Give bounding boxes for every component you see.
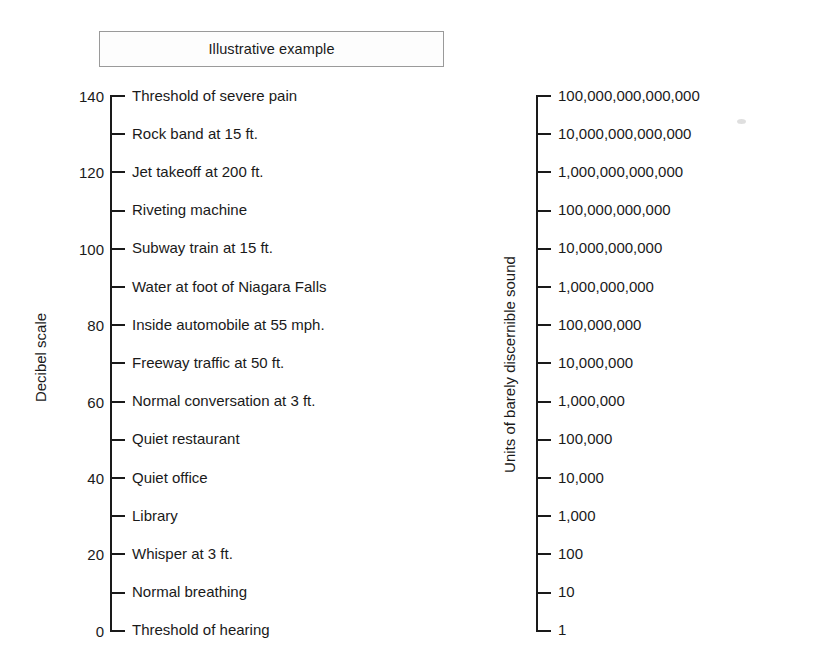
units-tick-value: 100,000,000 (558, 317, 641, 332)
tick-mark (110, 553, 125, 555)
tick-mark (110, 362, 125, 364)
sound-source-label: Jet takeoff at 200 ft. (132, 164, 263, 179)
units-tick-value: 10,000,000,000 (558, 240, 662, 255)
tick-mark (536, 133, 551, 135)
units-axis-title: Units of barely discernible sound (502, 220, 517, 510)
decibel-tick-value: 40 (87, 471, 104, 486)
sound-source-label: Library (132, 508, 178, 523)
sound-source-label: Threshold of severe pain (132, 88, 297, 103)
units-tick-value: 1,000,000 (558, 393, 625, 408)
tick-mark (536, 477, 551, 479)
scan-artifact-speck (737, 119, 746, 124)
tick-mark (536, 324, 551, 326)
decibel-tick-value: 80 (87, 318, 104, 333)
decibel-tick-value: 120 (79, 165, 104, 180)
tick-mark (110, 133, 125, 135)
sound-source-label: Water at foot of Niagara Falls (132, 279, 327, 294)
tick-mark (110, 324, 125, 326)
tick-mark (536, 439, 551, 441)
sound-source-label: Normal conversation at 3 ft. (132, 393, 315, 408)
decibel-tick-value: 140 (79, 89, 104, 104)
tick-mark (110, 95, 125, 97)
units-tick-value: 1 (558, 622, 566, 637)
tick-mark (536, 286, 551, 288)
decibel-tick-value: 60 (87, 395, 104, 410)
tick-mark (536, 592, 551, 594)
tick-mark (110, 248, 125, 250)
tick-mark (536, 401, 551, 403)
sound-source-label: Riveting machine (132, 202, 247, 217)
units-tick-value: 10,000 (558, 470, 604, 485)
units-tick-value: 10 (558, 584, 575, 599)
units-tick-value: 1,000 (558, 508, 596, 523)
page-title: Illustrative example (208, 41, 334, 57)
tick-mark (110, 171, 125, 173)
tick-mark (110, 477, 125, 479)
units-tick-value: 10,000,000,000,000 (558, 126, 691, 141)
tick-mark (110, 401, 125, 403)
tick-mark (536, 171, 551, 173)
tick-mark (536, 248, 551, 250)
decibel-tick-value: 20 (87, 547, 104, 562)
sound-source-label: Inside automobile at 55 mph. (132, 317, 325, 332)
units-tick-value: 100,000,000,000 (558, 202, 671, 217)
sound-source-label: Whisper at 3 ft. (132, 546, 233, 561)
tick-mark (536, 553, 551, 555)
tick-mark (110, 210, 125, 212)
decibel-axis-title: Decibel scale (33, 298, 48, 418)
tick-mark (110, 286, 125, 288)
sound-source-label: Normal breathing (132, 584, 247, 599)
chart-title-box: Illustrative example (99, 31, 444, 67)
sound-source-label: Freeway traffic at 50 ft. (132, 355, 284, 370)
tick-mark (536, 362, 551, 364)
sound-source-label: Quiet restaurant (132, 431, 240, 446)
tick-mark (110, 515, 125, 517)
units-tick-value: 100,000 (558, 431, 612, 446)
units-tick-value: 100,000,000,000,000 (558, 88, 700, 103)
units-tick-value: 10,000,000 (558, 355, 633, 370)
units-tick-value: 1,000,000,000 (558, 279, 654, 294)
sound-source-label: Quiet office (132, 470, 208, 485)
tick-mark (110, 630, 125, 632)
decibel-tick-value: 0 (96, 624, 104, 639)
sound-source-label: Threshold of hearing (132, 622, 270, 637)
sound-source-label: Subway train at 15 ft. (132, 240, 273, 255)
tick-mark (110, 592, 125, 594)
units-tick-value: 1,000,000,000,000 (558, 164, 683, 179)
tick-mark (536, 95, 551, 97)
tick-mark (110, 439, 125, 441)
decibel-tick-value: 100 (79, 242, 104, 257)
tick-mark (536, 630, 551, 632)
units-tick-value: 100 (558, 546, 583, 561)
sound-source-label: Rock band at 15 ft. (132, 126, 258, 141)
tick-mark (536, 515, 551, 517)
tick-mark (536, 210, 551, 212)
